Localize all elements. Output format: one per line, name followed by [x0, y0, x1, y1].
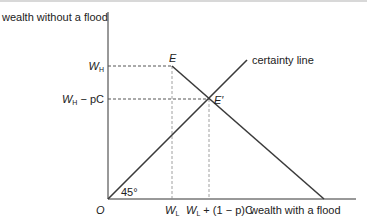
certainty-line [108, 60, 247, 199]
certainty-line-label: certainty line [252, 54, 314, 66]
point-e-prime-label: E′ [214, 94, 224, 106]
y-tick-wh: WH [89, 60, 104, 73]
y-tick-wh-pc: WH − pC [62, 93, 104, 106]
x-tick-wl: WL [165, 204, 179, 217]
insurance-diagram: wealth without a flood wealth with a flo… [0, 0, 367, 223]
x-axis-label: wealth with a flood [249, 204, 341, 216]
point-e-label: E [169, 52, 177, 64]
x-tick-wl-1pc: WL + (1 − p)C [186, 204, 253, 217]
budget-line [172, 66, 324, 199]
origin-label: O [96, 204, 105, 216]
y-axis-label: wealth without a flood [1, 11, 108, 23]
angle-label: 45° [121, 186, 138, 198]
